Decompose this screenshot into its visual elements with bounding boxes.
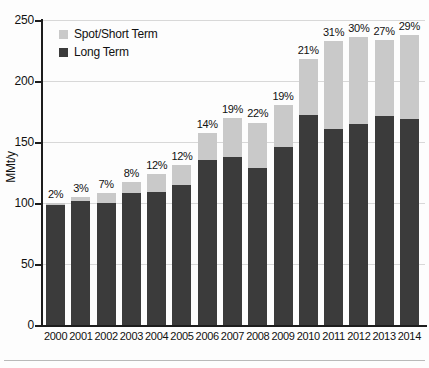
bar-segment-long-term [248, 168, 267, 325]
bar-percent-label-2010: 21% [291, 45, 325, 56]
bar-segment-spot-short-term [400, 35, 419, 119]
bar-segment-long-term [375, 116, 394, 325]
bar-percent-label-2009: 19% [266, 91, 300, 102]
bar-segment-spot-short-term [172, 165, 191, 185]
bar-segment-long-term [324, 129, 343, 325]
bar-segment-spot-short-term [299, 59, 318, 115]
bar-percent-label-2006: 14% [190, 119, 224, 130]
bar-2008 [248, 122, 267, 325]
bar-percent-label-2014: 29% [392, 21, 426, 32]
bar-percent-label-2008: 22% [241, 108, 275, 119]
stacked-bar-chart: MMt/y Spot/Short Term Long Term 05010015… [0, 0, 429, 368]
bar-2009 [274, 105, 293, 325]
bar-2006 [198, 133, 217, 325]
y-tick-label: 200 [0, 75, 34, 87]
bar-segment-long-term [198, 160, 217, 325]
bar-2012 [349, 37, 368, 325]
bar-2005 [172, 165, 191, 325]
bar-segment-spot-short-term [198, 133, 217, 160]
bar-segment-spot-short-term [46, 203, 65, 205]
bar-2013 [375, 40, 394, 325]
y-tick-label: 0 [0, 319, 34, 331]
bar-segment-long-term [97, 203, 116, 325]
bar-segment-long-term [147, 192, 166, 325]
bar-2014 [400, 35, 419, 325]
y-tick-label: 100 [0, 197, 34, 209]
legend-label-long-term: Long Term [74, 46, 129, 58]
y-tick-mark [35, 142, 42, 144]
bar-2003 [122, 182, 141, 325]
bar-segment-long-term [274, 147, 293, 325]
bar-2000 [46, 203, 65, 325]
y-tick-label: 250 [0, 14, 34, 26]
x-axis-line [41, 325, 427, 327]
bar-segment-spot-short-term [71, 197, 90, 201]
y-tick-mark [35, 20, 42, 22]
bar-percent-label-2005: 12% [165, 151, 199, 162]
bar-2001 [71, 197, 90, 325]
bar-2004 [147, 174, 166, 325]
bar-segment-spot-short-term [147, 174, 166, 192]
bar-2007 [223, 118, 242, 325]
bar-segment-spot-short-term [122, 182, 141, 193]
page-scan-rule [4, 360, 425, 361]
legend-item-spot-short-term: Spot/Short Term [59, 26, 158, 42]
bar-segment-spot-short-term [97, 193, 116, 203]
legend-swatch-long-term [59, 48, 68, 57]
y-tick-mark [35, 264, 42, 266]
bar-segment-long-term [122, 193, 141, 325]
gridline [42, 20, 425, 21]
legend-swatch-spot-short-term [59, 30, 68, 39]
bar-segment-spot-short-term [223, 118, 242, 157]
x-tick-label-2014: 2014 [394, 331, 424, 342]
bar-segment-spot-short-term [375, 40, 394, 117]
bar-segment-spot-short-term [324, 41, 343, 129]
y-tick-mark [35, 325, 42, 327]
bar-2011 [324, 41, 343, 325]
bar-segment-long-term [400, 119, 419, 325]
bar-segment-long-term [46, 205, 65, 325]
bar-segment-spot-short-term [274, 105, 293, 146]
bar-2002 [97, 193, 116, 325]
bar-segment-spot-short-term [248, 123, 267, 168]
bar-percent-label-2002: 7% [89, 179, 123, 190]
bar-segment-long-term [172, 185, 191, 325]
y-tick-mark [35, 81, 42, 83]
legend-item-long-term: Long Term [59, 44, 158, 60]
bar-segment-long-term [71, 201, 90, 325]
y-tick-label: 150 [0, 136, 34, 148]
bar-2010 [299, 59, 318, 325]
y-axis-line [41, 19, 43, 326]
chart-legend: Spot/Short Term Long Term [59, 26, 158, 62]
legend-label-spot-short-term: Spot/Short Term [74, 28, 158, 40]
bar-segment-long-term [299, 115, 318, 325]
bar-segment-spot-short-term [349, 37, 368, 124]
bar-segment-long-term [349, 124, 368, 325]
y-tick-mark [35, 203, 42, 205]
bar-segment-long-term [223, 157, 242, 325]
y-tick-label: 50 [0, 258, 34, 270]
